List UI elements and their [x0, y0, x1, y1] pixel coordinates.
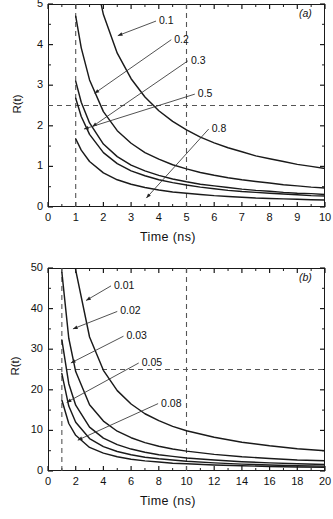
annotation-leader-0.01	[86, 286, 111, 301]
x-tick-label: 10	[313, 211, 333, 223]
x-tick-label: 9	[285, 211, 309, 223]
x-tick-label: 8	[147, 475, 171, 487]
y-tick-label: 50	[18, 261, 43, 273]
x-tick-label: 6	[119, 475, 143, 487]
x-tick-label: 2	[91, 211, 115, 223]
curve-label-0.02: 0.02	[120, 304, 140, 316]
x-tick-label: 16	[258, 475, 282, 487]
x-tick-label: 8	[258, 211, 282, 223]
x-tick-label: 5	[175, 211, 199, 223]
curve-label-0.01: 0.01	[114, 279, 134, 291]
x-tick-label: 0	[36, 211, 60, 223]
x-tick-label: 12	[202, 475, 226, 487]
curve-label-0.03: 0.03	[126, 329, 146, 341]
curve-label-0.3: 0.3	[191, 54, 206, 66]
figure-container: R(t) Time (ns) (a) 0123456789100123450.1…	[0, 0, 333, 519]
x-axis-title-b: Time (ns)	[140, 494, 196, 508]
curve-label-0.1: 0.1	[159, 14, 174, 26]
y-tick-label: 40	[18, 302, 43, 314]
x-tick-label: 7	[230, 211, 254, 223]
curve-label-0.05: 0.05	[142, 356, 162, 368]
annotation-leader-0.3	[92, 61, 188, 127]
x-tick-label: 3	[119, 211, 143, 223]
curve-label-0.2: 0.2	[174, 33, 189, 45]
curve-0.8	[76, 139, 325, 200]
panel-b: R(t) Time (ns) (b) 024681012141618200102…	[0, 255, 333, 519]
y-tick-label: 30	[18, 342, 43, 354]
y-tick-label: 0	[18, 200, 43, 212]
x-axis-title-a: Time (ns)	[140, 230, 196, 244]
annotation-leader-0.8	[146, 129, 208, 198]
x-tick-label: 1	[64, 211, 88, 223]
y-tick-label: 0	[18, 464, 43, 476]
y-tick-label: 10	[18, 423, 43, 435]
curve-0.1	[76, 0, 325, 168]
y-tick-label: 1	[18, 159, 43, 171]
panel-a: R(t) Time (ns) (a) 0123456789100123450.1…	[0, 0, 333, 255]
annotation-leader-0.02	[73, 311, 117, 328]
annotation-leader-0.1	[118, 21, 156, 36]
panel-label-b: (b)	[299, 271, 312, 283]
annotation-leader-0.03	[71, 336, 124, 363]
x-tick-label: 4	[147, 211, 171, 223]
x-tick-label: 6	[202, 211, 226, 223]
y-tick-label: 3	[18, 78, 43, 90]
y-tick-label: 2	[18, 119, 43, 131]
annotation-leader-0.08	[78, 404, 158, 441]
x-tick-label: 14	[230, 475, 254, 487]
curve-label-0.8: 0.8	[212, 122, 227, 134]
x-tick-label: 20	[313, 475, 333, 487]
annotation-leader-0.2	[95, 40, 172, 94]
panel-label-a: (a)	[299, 7, 312, 19]
x-tick-label: 2	[64, 475, 88, 487]
curve-label-0.5: 0.5	[198, 87, 213, 99]
y-tick-label: 5	[18, 0, 43, 9]
y-tick-label: 4	[18, 38, 43, 50]
curve-0.5	[76, 98, 325, 196]
y-tick-label: 20	[18, 383, 43, 395]
x-tick-label: 0	[36, 475, 60, 487]
curve-0.08	[62, 400, 325, 467]
curve-label-0.08: 0.08	[161, 397, 181, 409]
x-tick-label: 10	[175, 475, 199, 487]
x-tick-label: 4	[91, 475, 115, 487]
x-tick-label: 18	[285, 475, 309, 487]
